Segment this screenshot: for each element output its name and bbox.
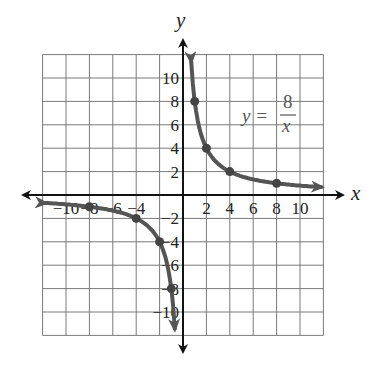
y-tick-label: −2 [161,209,179,228]
data-point [272,179,281,188]
equation-numerator: 8 [283,91,293,112]
equation-lhs: y = [240,105,268,126]
data-point [155,237,164,246]
data-point [132,214,141,223]
data-point [190,97,199,106]
y-tick-label: 8 [171,92,180,111]
x-tick-label: 10 [292,199,309,218]
x-tick-label: 6 [249,199,258,218]
y-tick-label: 6 [171,116,180,135]
equation-label: y = 8 x [240,91,296,136]
hyperbola-graph: x y −10−8−6−4246810 108642−2−4−6−8−10 y … [0,0,376,371]
equation-denominator: x [281,115,291,136]
y-tick-label: 4 [171,139,180,158]
y-axis-label: y [174,8,186,32]
x-tick-label: 2 [202,199,211,218]
x-axis-label: x [350,181,361,205]
data-point [202,144,211,153]
data-point [85,202,94,211]
data-point [167,284,176,293]
data-point [225,167,234,176]
y-tick-label: 2 [171,163,180,182]
y-tick-label: 10 [162,69,179,88]
x-tick-label: 8 [272,199,281,218]
x-tick-label: 4 [226,199,235,218]
